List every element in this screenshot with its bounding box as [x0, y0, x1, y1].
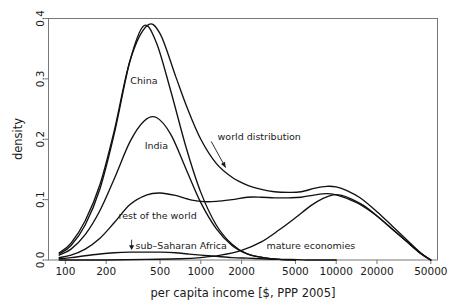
density-chart-figure: 0.00.10.20.30.4 100200500100020005000100… [0, 0, 455, 306]
x-tick-label: 500 [150, 265, 170, 277]
x-tick-label: 10000 [319, 265, 352, 277]
annotation-label-india: India [145, 140, 168, 151]
x-tick-label: 2000 [228, 265, 255, 277]
x-tick-label: 20000 [360, 265, 393, 277]
annotation-label-mature-economies: mature economies [266, 240, 355, 251]
x-tick-label: 5000 [282, 265, 309, 277]
x-tick-label: 50000 [414, 265, 447, 277]
y-tick-label: 0.1 [34, 191, 46, 208]
y-tick-label: 0.2 [34, 131, 46, 148]
y-tick-label: 0.0 [34, 252, 46, 269]
y-tick-label: 0.3 [34, 71, 46, 88]
y-axis-title: density [11, 118, 25, 160]
chart-canvas: 0.00.10.20.30.4 100200500100020005000100… [0, 0, 455, 306]
annotation-label-sub-saharan-africa: sub–Saharan Africa [136, 240, 227, 251]
x-tick-label: 200 [96, 265, 116, 277]
annotation-label-rest-of-the-world: rest of the world [119, 210, 197, 221]
y-tick-label: 0.4 [34, 10, 46, 27]
annotation-label-world-distribution: world distribution [218, 131, 301, 142]
annotation-label-china: China [130, 75, 157, 86]
x-tick-label: 100 [55, 265, 75, 277]
x-axis-title: per capita income [$, PPP 2005] [151, 286, 336, 300]
x-tick-label: 1000 [187, 265, 214, 277]
